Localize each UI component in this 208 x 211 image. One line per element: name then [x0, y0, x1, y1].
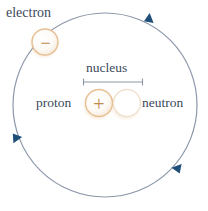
proton-label: proton [36, 96, 71, 110]
proton-charge-sign: + [92, 93, 106, 116]
nucleus-bracket [83, 79, 143, 86]
atom-structure-diagram: − + electron nucleus proton neutron [0, 0, 208, 211]
electron-label: electron [6, 6, 51, 20]
neutron-particle [110, 89, 142, 121]
electron-charge-sign: − [39, 33, 52, 54]
neutron-circle [114, 90, 141, 117]
nucleus-label: nucleus [86, 61, 127, 75]
neutron-label: neutron [142, 96, 183, 110]
